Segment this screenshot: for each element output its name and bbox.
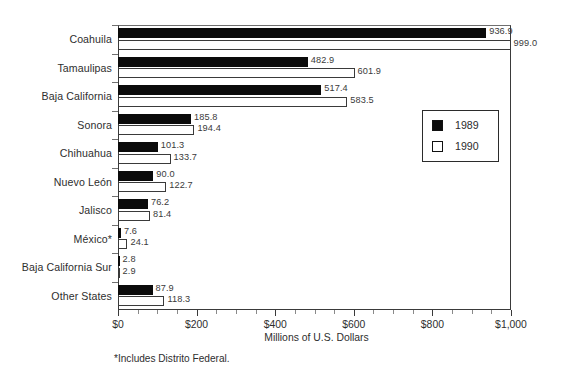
legend-swatch-hollow-icon [432, 141, 443, 152]
x-tick-label: $400 [264, 319, 287, 330]
bar-1989 [118, 256, 120, 266]
category-label: Nuevo León [54, 176, 112, 188]
x-tick-minor [177, 310, 178, 314]
bar-group: 7.624.1 [118, 225, 511, 254]
bar-value-label: 194.4 [197, 123, 221, 133]
bar-value-label: 118.3 [167, 294, 190, 304]
x-tick-minor [393, 310, 394, 314]
bar-value-label: 601.9 [358, 66, 382, 76]
category-label: México* [74, 233, 112, 245]
bar-value-label: 133.7 [174, 152, 198, 162]
x-tick-minor [373, 310, 374, 314]
legend-item-1989: 1989 [432, 119, 479, 131]
bar-value-label: 122.7 [169, 180, 193, 190]
category-row: Tamaulipas482.9601.9 [0, 54, 561, 83]
category-row: Other States87.9118.3 [0, 282, 561, 311]
bar-1989 [118, 171, 153, 181]
bar-group: 482.9601.9 [118, 54, 511, 83]
bar-group: 517.4583.5 [118, 82, 511, 111]
category-row: Coahuila936.9999.0 [0, 25, 561, 54]
category-label: Coahuila [69, 33, 112, 45]
legend-label-1990: 1990 [455, 140, 479, 152]
legend-item-1990: 1990 [432, 140, 479, 152]
chart-legend: 1989 1990 [422, 110, 499, 162]
bar-group: 936.9999.0 [118, 25, 511, 54]
x-tick-major [354, 310, 355, 316]
x-axis-title-label: Millions of U.S. Dollars [264, 332, 369, 343]
bar-chart: Coahuila936.9999.0Tamaulipas482.9601.9Ba… [0, 0, 561, 375]
bar-1990 [118, 40, 511, 50]
x-axis: $0$200$400$600$800$1,000 [118, 310, 511, 311]
bar-1990 [118, 97, 347, 107]
category-label: Sonora [77, 119, 112, 131]
bar-value-label: 517.4 [324, 83, 348, 93]
x-tick-label: $800 [421, 319, 444, 330]
legend-label-1989: 1989 [455, 119, 479, 131]
bar-1989 [118, 57, 308, 67]
category-label: Tamaulipas [57, 62, 112, 74]
bar-group: 2.82.9 [118, 253, 511, 282]
category-row: Nuevo León90.0122.7 [0, 168, 561, 197]
bar-value-label: 7.6 [124, 226, 137, 236]
bar-value-label: 2.8 [123, 254, 136, 264]
bar-1990 [118, 68, 355, 78]
bar-group: 87.9118.3 [118, 282, 511, 311]
bar-1990 [118, 296, 164, 306]
bar-1990 [118, 125, 194, 135]
x-tick-major [118, 310, 119, 316]
x-tick-minor [138, 310, 139, 314]
bar-value-label: 76.2 [151, 197, 169, 207]
legend-swatch-filled-icon [432, 120, 443, 131]
bar-value-label: 936.9 [489, 26, 513, 36]
x-tick-minor [452, 310, 453, 314]
bar-1989 [118, 85, 321, 95]
x-tick-minor [315, 310, 316, 314]
category-row: Baja California517.4583.5 [0, 82, 561, 111]
category-label: Chihuahua [60, 147, 112, 159]
category-row: Baja California Sur2.82.9 [0, 253, 561, 282]
category-label: Baja California Sur [22, 261, 112, 273]
x-axis-title: Millions of U.S. Dollars [0, 332, 561, 343]
bar-1990 [118, 182, 166, 192]
bar-value-label: 185.8 [194, 112, 218, 122]
x-tick-minor [334, 310, 335, 314]
bar-1989 [118, 28, 486, 38]
x-tick-label: $1,000 [495, 319, 527, 330]
bar-1990 [118, 154, 171, 164]
x-tick-major [275, 310, 276, 316]
category-row: México*7.624.1 [0, 225, 561, 254]
bar-1990 [118, 211, 150, 221]
category-label: Jalisco [79, 204, 112, 216]
bar-value-label: 87.9 [156, 283, 174, 293]
x-tick-minor [295, 310, 296, 314]
x-tick-major [432, 310, 433, 316]
bar-group: 90.0122.7 [118, 168, 511, 197]
x-tick-major [511, 310, 512, 316]
x-tick-minor [491, 310, 492, 314]
category-label: Other States [51, 290, 112, 302]
x-tick-label: $600 [342, 319, 365, 330]
x-tick-label: $0 [112, 319, 124, 330]
bar-1989 [118, 114, 191, 124]
bar-1989 [118, 228, 121, 238]
bar-1989 [118, 285, 153, 295]
x-tick-minor [236, 310, 237, 314]
x-tick-minor [256, 310, 257, 314]
x-tick-minor [472, 310, 473, 314]
bar-value-label: 583.5 [350, 95, 374, 105]
bar-1990 [118, 268, 120, 278]
category-label: Baja California [42, 90, 112, 102]
x-tick-major [197, 310, 198, 316]
bar-value-label: 482.9 [311, 55, 335, 65]
bar-group: 76.281.4 [118, 196, 511, 225]
x-tick-label: $200 [185, 319, 208, 330]
bar-value-label: 90.0 [156, 169, 174, 179]
bar-1989 [118, 142, 158, 152]
bar-value-label: 101.3 [161, 140, 185, 150]
x-tick-minor [413, 310, 414, 314]
bar-1990 [118, 239, 127, 249]
bar-1989 [118, 199, 148, 209]
bar-value-label: 999.0 [514, 38, 538, 48]
bar-value-label: 2.9 [123, 266, 136, 276]
category-row: Jalisco76.281.4 [0, 196, 561, 225]
